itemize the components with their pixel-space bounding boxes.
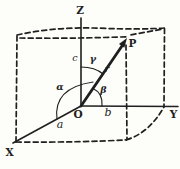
- component-a-label: a: [57, 118, 64, 131]
- box-edge-bottom-right-diagonal: [127, 107, 165, 140]
- alpha-angle-label: α: [56, 81, 64, 92]
- x-axis-label: X: [5, 146, 14, 158]
- box-edge-right-vertical: [164, 29, 165, 107]
- box-edge-below-p-vertical: [126, 45, 127, 140]
- box-edge-left-vertical: [16, 36, 17, 142]
- origin-label: O: [73, 108, 82, 120]
- vector-direction-cosines-diagram: Z Y X P O a b c r α β γ: [0, 0, 180, 169]
- diagram-canvas: Z Y X P O a b c r α β γ: [0, 0, 180, 169]
- z-axis-label: Z: [76, 4, 84, 16]
- box-edge-p-to-corner: [131, 29, 162, 35]
- y-axis-label: Y: [169, 108, 178, 120]
- x-axis: [13, 106, 81, 143]
- vector-r-shaft: [81, 45, 123, 107]
- beta-angle-label: β: [99, 84, 107, 95]
- point-p-label: P: [129, 37, 137, 49]
- box-edge-top-front: [20, 37, 126, 38]
- gamma-angle-label: γ: [90, 53, 97, 64]
- box-edge-top-back: [17, 28, 165, 35]
- component-b-label: b: [104, 106, 111, 119]
- gamma-angle-arc: [81, 67, 103, 74]
- component-c-label: c: [72, 52, 78, 63]
- box-edge-bottom-front: [16, 140, 127, 142]
- y-axis: [81, 106, 178, 107]
